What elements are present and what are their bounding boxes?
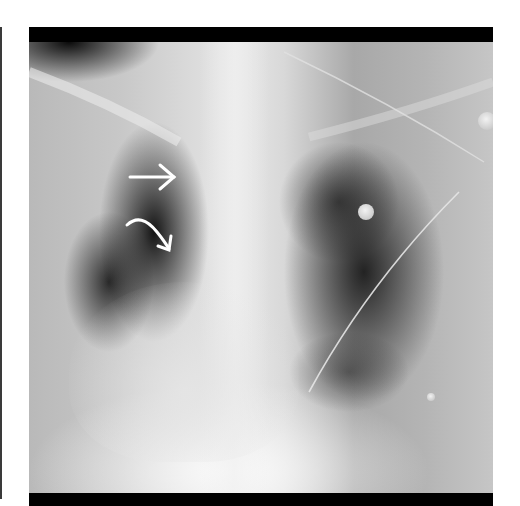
left-edge-line bbox=[0, 27, 2, 499]
monitoring-wire bbox=[284, 52, 484, 162]
xray-frame bbox=[29, 27, 493, 506]
chest-xray-image bbox=[29, 42, 493, 493]
overlay-lines bbox=[29, 42, 493, 493]
straight-arrow-icon bbox=[130, 165, 174, 189]
curved-arrow-icon bbox=[127, 220, 171, 250]
monitoring-wire bbox=[309, 192, 459, 392]
